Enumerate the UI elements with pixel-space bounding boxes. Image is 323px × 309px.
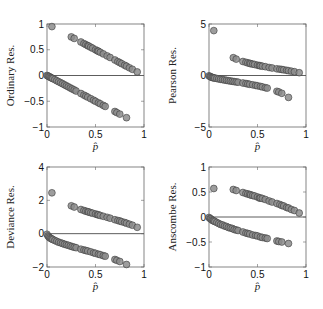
data-point [278,239,285,246]
anscombe-residual-panel: −1−0.500.5100.51p̂Anscombe Res. [166,162,309,293]
data-point [123,114,130,121]
data-point [285,94,292,101]
y-tick-label: −0.5 [186,237,206,248]
y-tick-label: −2 [33,262,45,273]
x-tick-label: 0 [206,269,212,280]
x-tick-label: 0.5 [251,269,265,280]
data-points [206,27,303,101]
data-point [49,23,56,30]
data-point [116,111,123,118]
x-axis-label: p̂ [254,280,261,292]
y-tick-label: −0.5 [24,96,44,107]
x-axis-label: p̂ [254,140,261,152]
data-point [210,185,217,192]
data-points [206,185,303,247]
data-points [44,189,141,267]
y-tick-label: 1 [200,162,206,173]
pearson-residual-panel: −50500.51p̂Pearson Res. [166,19,309,153]
x-tick-label: 1 [141,129,147,140]
y-tick-label: −1 [195,262,207,273]
x-tick-label: 0 [44,129,50,140]
data-point [71,35,78,42]
y-axis-label: Ordinary Res. [4,44,16,106]
data-point [71,204,78,211]
x-tick-label: 0 [206,129,212,140]
x-tick-label: 0 [44,269,50,280]
data-point [278,90,285,97]
y-tick-label: 0.5 [192,187,206,198]
y-axis-label: Deviance Res. [4,185,16,249]
x-tick-label: 0.5 [251,129,265,140]
data-points [44,23,141,121]
x-tick-label: 1 [303,269,309,280]
data-point [116,258,123,265]
data-point [285,240,292,247]
x-tick-label: 1 [141,269,147,280]
y-tick-label: 1 [38,19,44,30]
data-point [123,261,130,268]
data-point [102,103,109,110]
x-tick-label: 1 [303,129,309,140]
x-tick-label: 0.5 [89,269,103,280]
data-point [49,189,56,196]
x-axis-label: p̂ [92,140,99,152]
y-tick-label: 0.5 [30,44,44,55]
data-point [233,56,240,63]
data-point [296,210,303,217]
data-point [210,27,217,34]
data-point [233,187,240,194]
residual-plots-figure: −1−0.500.5100.51p̂Ordinary Res.−50500.51… [0,0,323,309]
y-tick-label: −5 [195,122,207,133]
x-axis-label: p̂ [92,280,99,292]
y-axis-label: Pearson Res. [166,47,178,104]
data-point [264,85,271,92]
deviance-residual-panel: −202400.51p̂Deviance Res. [4,162,147,293]
data-point [296,69,303,76]
data-point [134,224,141,231]
data-point [134,69,141,76]
ordinary-residual-panel: −1−0.500.5100.51p̂Ordinary Res. [4,19,147,153]
y-tick-label: 2 [38,195,44,206]
data-point [264,235,271,242]
y-tick-label: −1 [33,122,45,133]
y-tick-label: 5 [200,19,206,30]
data-point [102,253,109,260]
x-tick-label: 0.5 [89,129,103,140]
y-tick-label: 4 [38,162,44,173]
y-axis-label: Anscombe Res. [166,182,178,251]
